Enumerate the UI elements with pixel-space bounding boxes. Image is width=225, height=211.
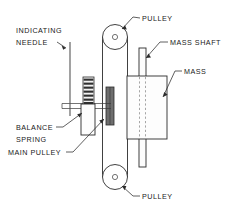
mass-shaft-upper	[139, 48, 146, 78]
label-balance-spring-line2: SPRING	[16, 135, 47, 144]
label-main-pulley: MAIN PULLEY	[8, 148, 61, 157]
arrowhead-mass-shaft	[146, 54, 151, 58]
label-indicating-needle-line1: INDICATING	[16, 26, 62, 35]
pulley-bottom-rim	[103, 165, 128, 190]
coil-band	[84, 79, 94, 81]
label-mass: MASS	[184, 67, 206, 76]
mass-block	[127, 76, 167, 139]
technical-diagram: INDICATING NEEDLE PULLEY MASS SHAFT MASS…	[0, 0, 225, 211]
leader-indicating-needle	[57, 42, 66, 48]
schematic-canvas: INDICATING NEEDLE PULLEY MASS SHAFT MASS…	[0, 0, 225, 211]
coil-band	[84, 99, 94, 101]
balance-spring	[81, 77, 95, 135]
mass-shaft-lower	[139, 137, 146, 167]
label-pulley-bottom: PULLEY	[142, 192, 173, 201]
mass-block-outline	[127, 76, 167, 139]
label-pulley-top: PULLEY	[142, 14, 173, 23]
label-indicating-needle-line2: NEEDLE	[16, 38, 48, 47]
coil-band	[84, 83, 94, 85]
coil-band	[84, 87, 94, 89]
label-mass-shaft: MASS SHAFT	[170, 38, 221, 47]
main-pulley	[106, 87, 114, 125]
pulley-bottom	[103, 165, 128, 190]
coil-band	[84, 95, 94, 97]
label-balance-spring-line1: BALANCE	[16, 123, 53, 132]
coil-band	[84, 91, 94, 93]
